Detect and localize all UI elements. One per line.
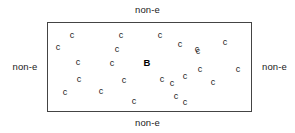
chemotaxis-diagram: non-e non-e non-e non-e cccccccccccccccc…	[0, 0, 295, 133]
chemoattractant-particle: c	[110, 59, 115, 68]
chemoattractant-particle: c	[63, 88, 68, 97]
chemoattractant-particle: c	[183, 72, 188, 81]
edge-label-left: non-e	[4, 61, 46, 72]
chemoattractant-particle: c	[178, 40, 183, 49]
chemoattractant-particle: c	[132, 97, 137, 106]
chemoattractant-particle: c	[119, 31, 124, 40]
chemoattractant-particle: c	[160, 75, 165, 84]
chemoattractant-particle: c	[183, 98, 188, 107]
chemoattractant-particle: c	[77, 75, 82, 84]
edge-label-bottom: non-e	[0, 117, 295, 128]
chemoattractant-particle: c	[158, 31, 163, 40]
chemoattractant-particle: c	[198, 65, 203, 74]
chemoattractant-particle: c	[99, 87, 104, 96]
edge-label-top: non-e	[0, 4, 295, 15]
chemoattractant-particle: c	[76, 58, 81, 67]
chemoattractant-particle: c	[196, 47, 201, 56]
chemoattractant-particle: c	[70, 31, 75, 40]
chemoattractant-particle: c	[223, 38, 228, 47]
chemoattractant-particle: c	[56, 43, 61, 52]
edge-label-right: non-e	[254, 61, 295, 72]
chemoattractant-particle: c	[236, 65, 241, 74]
chemoattractant-particle: c	[170, 79, 175, 88]
bacterium-label: B	[144, 58, 151, 68]
chemoattractant-particle: c	[115, 45, 120, 54]
chemoattractant-particle: c	[122, 76, 127, 85]
chemoattractant-particle: c	[174, 92, 179, 101]
chemoattractant-particle: c	[211, 78, 216, 87]
